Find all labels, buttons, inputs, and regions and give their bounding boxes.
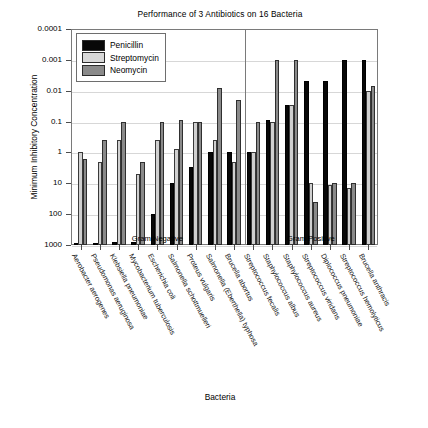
x-axis-category-labels: Aerobacter aerogenesPseudomonas aerugino… — [0, 0, 428, 428]
legend-label-penicillin: Penicillin — [110, 40, 143, 50]
antibiotics-bar-chart: Performance of 3 Antibiotics on 16 Bacte… — [0, 0, 428, 428]
legend-item-streptomycin: Streptomycin — [82, 52, 159, 63]
legend-swatch-streptomycin — [82, 52, 105, 63]
legend-item-neomycin: Neomycin — [82, 65, 159, 76]
legend-swatch-neomycin — [82, 65, 105, 76]
x-axis-title: Bacteria — [60, 392, 380, 402]
legend-label-neomycin: Neomycin — [110, 65, 147, 75]
legend: Penicillin Streptomycin Neomycin — [76, 33, 166, 82]
legend-item-penicillin: Penicillin — [82, 40, 159, 51]
legend-swatch-penicillin — [82, 40, 105, 51]
legend-label-streptomycin: Streptomycin — [110, 53, 159, 63]
